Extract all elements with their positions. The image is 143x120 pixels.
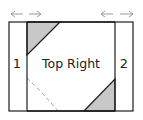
left-panel-label: 1 [13,56,21,71]
top-left-triangle [27,22,60,55]
quilt-block-diagram: 1 Top Right 2 [0,0,143,120]
left-double-arrow-icon [11,11,41,17]
dashed-fold-line [27,78,58,111]
center-label: Top Right [41,56,100,71]
bottom-right-triangle [84,79,115,111]
right-double-arrow-icon [101,11,133,17]
right-panel-label: 2 [120,56,128,71]
